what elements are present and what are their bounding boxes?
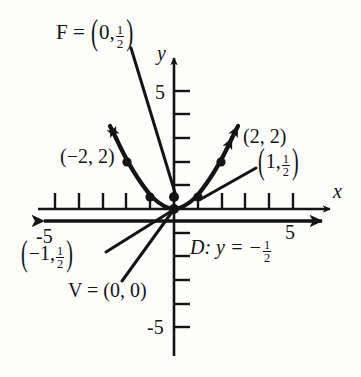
leader-point-1-half (201, 168, 256, 199)
pn1h-open-paren: ( (21, 236, 28, 271)
graph-canvas (0, 0, 361, 377)
directrix-fraction: 12 (263, 239, 271, 265)
leader-focus (131, 48, 176, 196)
x-tick-label-neg5: -5 (36, 226, 53, 246)
leader-point-neg1-half (106, 212, 170, 252)
directrix-equation: y = − (216, 236, 262, 258)
focus-close-paren: ) (126, 14, 133, 51)
point-neg1-half-label: (−1,12) (20, 243, 74, 271)
p1h-open-paren: ( (258, 144, 265, 179)
p1h-fraction: 12 (282, 153, 290, 179)
focus-label-prefix: F = (56, 20, 85, 44)
point-1-half-label: (1,12) (257, 151, 300, 179)
pn1h-fraction: 12 (56, 245, 64, 271)
focus-fraction: 12 (116, 23, 125, 50)
p1h-close-paren: ) (292, 144, 299, 179)
parabola-figure: F = (0,12) (−2, 2) (2, 2) (1,12) (−1,12)… (0, 0, 361, 377)
focus-x-value: 0, (99, 20, 115, 44)
y-axis-label: y (157, 43, 166, 63)
p1h-x-value: 1, (266, 150, 281, 172)
x-axis-label: x (333, 181, 342, 201)
point-neg2-2 (122, 157, 131, 166)
point-2-2 (216, 157, 225, 166)
focus-label: F = (0,12) (56, 22, 134, 50)
focus-open-paren: ( (91, 14, 98, 51)
directrix-name: D: (190, 236, 211, 258)
vertex-label: V = (0, 0) (68, 280, 147, 300)
y-tick-label-neg5: -5 (147, 317, 164, 337)
x-tick-label-5: 5 (285, 222, 295, 242)
point-neg2-2-label: (−2, 2) (60, 146, 115, 166)
y-tick-label-5: 5 (155, 82, 165, 102)
directrix-label: D: y = −12 (190, 237, 272, 265)
pn1h-close-paren: ) (66, 236, 73, 271)
point-neg1-half (145, 192, 154, 201)
